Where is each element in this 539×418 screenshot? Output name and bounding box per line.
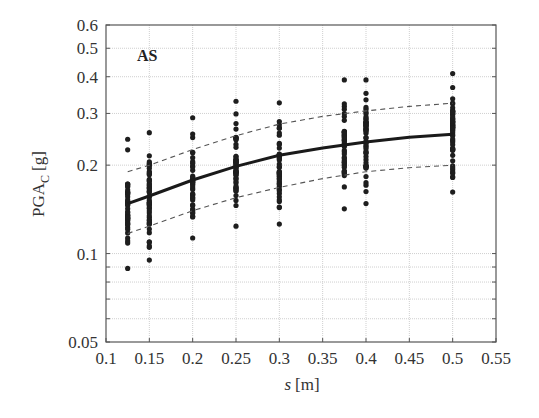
data-point — [125, 137, 130, 142]
y-axis-subscript: C — [38, 175, 52, 183]
data-point — [450, 146, 455, 151]
data-point — [190, 115, 195, 120]
x-tick-label: 0.45 — [394, 349, 424, 368]
fit-lines — [128, 103, 453, 233]
y-tick-labels: 0.050.10.20.30.40.50.6 — [68, 16, 98, 352]
data-point — [125, 221, 130, 226]
data-point — [363, 109, 368, 114]
y-tick-label: 0.1 — [77, 245, 98, 264]
data-point — [277, 119, 282, 124]
data-point — [125, 238, 130, 243]
data-point — [342, 104, 347, 109]
data-point — [363, 105, 368, 110]
x-tick-label: 0.15 — [134, 349, 164, 368]
data-point — [342, 148, 347, 153]
data-point — [450, 110, 455, 115]
data-point — [233, 184, 238, 189]
data-point — [450, 71, 455, 76]
data-point — [233, 203, 238, 208]
data-point — [190, 164, 195, 169]
y-tick-label: 0.2 — [77, 156, 98, 175]
data-point — [190, 235, 195, 240]
data-point — [363, 151, 368, 156]
y-tick-label: 0.05 — [68, 333, 98, 352]
data-point — [190, 196, 195, 201]
x-tick-label: 0.55 — [481, 349, 511, 368]
x-axis-symbol: s — [284, 375, 291, 394]
data-point — [125, 209, 130, 214]
data-point — [450, 153, 455, 158]
data-point — [147, 230, 152, 235]
data-point — [277, 204, 282, 209]
data-point — [342, 206, 347, 211]
scatter-points — [125, 71, 455, 271]
x-tick-label: 0.3 — [269, 349, 290, 368]
data-point — [147, 217, 152, 222]
data-point — [277, 100, 282, 105]
y-tick-label: 0.3 — [77, 104, 98, 123]
data-point — [147, 258, 152, 263]
data-point — [342, 77, 347, 82]
data-point — [233, 176, 238, 181]
data-point — [125, 227, 130, 232]
data-point — [233, 145, 238, 150]
data-point — [450, 85, 455, 90]
median-fit-line — [128, 134, 453, 203]
data-point — [450, 189, 455, 194]
data-point — [342, 184, 347, 189]
data-point — [125, 187, 130, 192]
data-point — [147, 239, 152, 244]
x-axis-label: s[m] — [284, 375, 319, 394]
data-point — [363, 201, 368, 206]
x-tick-label: 0.5 — [442, 349, 463, 368]
data-point — [277, 221, 282, 226]
data-point — [363, 129, 368, 134]
y-axis-main: PGA — [29, 182, 48, 217]
data-point — [450, 158, 455, 163]
data-point — [363, 77, 368, 82]
data-point — [233, 137, 238, 142]
data-point — [277, 182, 282, 187]
data-point — [147, 208, 152, 213]
data-point — [363, 189, 368, 194]
data-point — [147, 153, 152, 158]
data-point — [233, 99, 238, 104]
y-tick-label: 0.6 — [77, 16, 98, 35]
data-point — [363, 97, 368, 102]
x-tick-label: 0.25 — [221, 349, 251, 368]
data-point — [147, 200, 152, 205]
data-point — [233, 193, 238, 198]
data-point — [277, 164, 282, 169]
data-point — [450, 136, 455, 141]
x-tick-label: 0.35 — [308, 349, 338, 368]
y-tick-label: 0.4 — [77, 68, 99, 87]
data-point — [450, 171, 455, 176]
panel-label: AS — [137, 47, 158, 64]
data-point — [233, 170, 238, 175]
data-point — [450, 125, 455, 130]
data-point — [342, 134, 347, 139]
data-point — [363, 91, 368, 96]
x-tick-label: 0.2 — [182, 349, 203, 368]
data-point — [342, 173, 347, 178]
data-point — [190, 214, 195, 219]
y-tick-label: 0.5 — [77, 39, 98, 58]
data-point — [363, 146, 368, 151]
data-point — [233, 224, 238, 229]
data-point — [342, 155, 347, 160]
data-point — [363, 180, 368, 185]
y-axis-label: PGAC[g] — [29, 151, 52, 217]
data-point — [190, 131, 195, 136]
data-point — [450, 114, 455, 119]
data-point — [342, 118, 347, 123]
data-point — [190, 155, 195, 160]
data-point — [233, 154, 238, 159]
data-point — [450, 165, 455, 170]
data-point — [363, 174, 368, 179]
x-tick-label: 0.1 — [95, 349, 116, 368]
data-point — [233, 111, 238, 116]
data-point — [363, 123, 368, 128]
data-point — [125, 147, 130, 152]
x-tick-labels: 0.10.150.20.250.30.350.40.450.50.55 — [95, 349, 511, 368]
data-point — [190, 203, 195, 208]
